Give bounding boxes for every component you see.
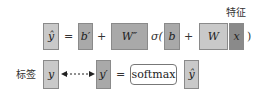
feature-label: 特征 (226, 8, 246, 18)
arrow-head-left (61, 71, 67, 77)
b-symbol: b (168, 30, 175, 43)
bidirectional-dashed-arrow (60, 69, 96, 79)
x-symbol: x (233, 30, 239, 43)
equals-sign-2: = (116, 69, 125, 80)
equals-sign: = (64, 31, 73, 42)
W-symbol: W (208, 30, 219, 43)
W-double-prime-symbol: W″ (122, 30, 137, 43)
softmax-box: softmax (130, 64, 177, 85)
close-paren: ) (247, 31, 251, 42)
x-box: x (229, 23, 244, 50)
y-prime-symbol: y′ (99, 68, 108, 81)
plus-sign-1: + (97, 31, 106, 42)
sigma-open: σ( (151, 31, 163, 42)
b-prime-symbol: b′ (81, 30, 91, 43)
plus-sign-2: + (184, 31, 193, 42)
y-hat-symbol: ŷ (48, 30, 54, 43)
b-prime-box: b′ (78, 23, 93, 50)
y-symbol: y (48, 68, 54, 81)
W-double-prime-box: W″ (111, 23, 148, 50)
arrow-head-right (89, 71, 95, 77)
y-hat-box: ŷ (43, 23, 59, 50)
y-hat-symbol-2: ŷ (188, 68, 194, 81)
y-hat-box-2: ŷ (184, 60, 199, 89)
W-box: W (199, 23, 228, 50)
b-box: b (164, 23, 180, 50)
softmax-label: softmax (132, 68, 176, 81)
y-prime-box: y′ (96, 60, 111, 89)
label-text: 标签 (16, 70, 36, 80)
y-box: y (43, 60, 59, 89)
